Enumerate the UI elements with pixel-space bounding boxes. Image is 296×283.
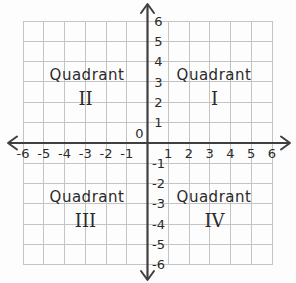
x-tick-label: 5 bbox=[247, 146, 255, 161]
y-tick-label: -6 bbox=[152, 257, 165, 272]
coordinate-plane: -6-5-4-3-2-1123456 654321-1-2-3-4-5-6 0 … bbox=[0, 0, 296, 283]
quadrant-4-numeral: IV bbox=[204, 210, 225, 231]
x-tick-label: 4 bbox=[226, 146, 234, 161]
x-tick-label: 6 bbox=[268, 146, 276, 161]
x-tick-label: -2 bbox=[100, 146, 113, 161]
x-tick-label: -6 bbox=[17, 146, 30, 161]
y-tick-label: 1 bbox=[154, 115, 162, 130]
origin-label: 0 bbox=[135, 126, 143, 141]
x-tick-label: -3 bbox=[79, 146, 92, 161]
quadrant-3-numeral: III bbox=[75, 210, 96, 231]
quadrant-1-numeral: I bbox=[211, 88, 218, 109]
y-tick-label: 4 bbox=[154, 54, 162, 69]
quadrant-2-word: Quadrant bbox=[50, 66, 125, 84]
x-tick-label: 2 bbox=[185, 146, 193, 161]
y-tick-label: 5 bbox=[154, 34, 162, 49]
y-tick-label: -4 bbox=[152, 217, 165, 232]
x-axis-tick-labels: -6-5-4-3-2-1123456 bbox=[17, 146, 277, 161]
y-tick-label: 2 bbox=[154, 95, 162, 110]
x-tick-label: 1 bbox=[164, 146, 172, 161]
y-tick-label: -3 bbox=[152, 196, 165, 211]
axes bbox=[8, 4, 290, 280]
quadrant-4-word: Quadrant bbox=[177, 188, 252, 206]
quadrant-3-word: Quadrant bbox=[50, 188, 125, 206]
x-tick-label: 3 bbox=[206, 146, 214, 161]
y-tick-label: -5 bbox=[152, 237, 165, 252]
coordinate-plane-figure: -6-5-4-3-2-1123456 654321-1-2-3-4-5-6 0 … bbox=[0, 0, 296, 283]
y-tick-label: 6 bbox=[154, 14, 162, 29]
y-tick-label: -2 bbox=[152, 176, 165, 191]
x-tick-label: -4 bbox=[58, 146, 71, 161]
quadrant-1-word: Quadrant bbox=[177, 66, 252, 84]
quadrant-2-numeral: II bbox=[78, 88, 92, 109]
y-tick-label: 3 bbox=[154, 75, 162, 90]
x-tick-label: -1 bbox=[120, 146, 133, 161]
x-tick-label: -5 bbox=[37, 146, 50, 161]
y-tick-label: -1 bbox=[152, 156, 165, 171]
